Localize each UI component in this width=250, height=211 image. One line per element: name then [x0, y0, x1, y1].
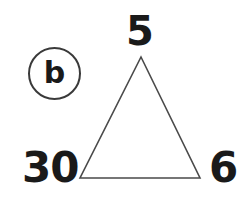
worksheet-canvas: b 5 30 6	[0, 0, 250, 211]
triangle-outline	[80, 57, 200, 178]
triangle-label-top: 5	[126, 11, 154, 51]
triangle-label-bottom-right: 6	[209, 147, 238, 189]
triangle-label-bottom-left: 30	[22, 147, 78, 189]
